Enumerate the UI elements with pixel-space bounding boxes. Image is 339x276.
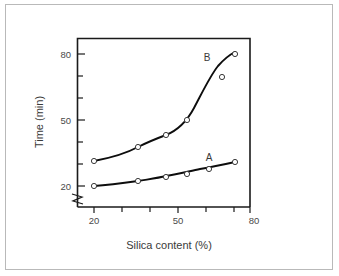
series-b-label: B [204, 52, 211, 63]
chart-figure: 80 50 20 20 50 80 Silica content (%) Tim… [0, 0, 339, 276]
chart-page: 80 50 20 20 50 80 Silica content (%) Tim… [0, 0, 339, 276]
y-axis-ticks [78, 54, 86, 186]
y-axis-title: Time (min) [33, 96, 45, 148]
series-a-curve [94, 162, 235, 186]
series-b-point [91, 158, 96, 163]
series-a-point [135, 178, 140, 183]
y-tick-label-20: 20 [60, 181, 71, 192]
plot-frame-path [78, 39, 251, 208]
x-tick-label-20: 20 [89, 215, 100, 226]
series-b-point [135, 144, 140, 149]
series-b-point [163, 132, 168, 137]
y-tick-label-80: 80 [60, 49, 71, 60]
series-a-point [232, 159, 237, 164]
series-a-point [163, 174, 168, 179]
plot-frame [78, 39, 251, 208]
series-b-point [232, 51, 237, 56]
series-b-curve [94, 52, 235, 161]
series-a-point [184, 171, 189, 176]
series-b-point [184, 117, 189, 122]
x-tick-label-80: 80 [249, 215, 260, 226]
series-a-label: A [206, 152, 213, 163]
series-a-point [206, 166, 211, 171]
x-tick-label-50: 50 [173, 215, 184, 226]
series-a-point [91, 183, 96, 188]
y-axis-break-icon [72, 194, 83, 204]
y-tick-label-50: 50 [60, 115, 71, 126]
x-axis-title: Silica content (%) [126, 239, 212, 251]
series-b-point [219, 74, 224, 79]
x-axis-ticks [94, 207, 250, 213]
